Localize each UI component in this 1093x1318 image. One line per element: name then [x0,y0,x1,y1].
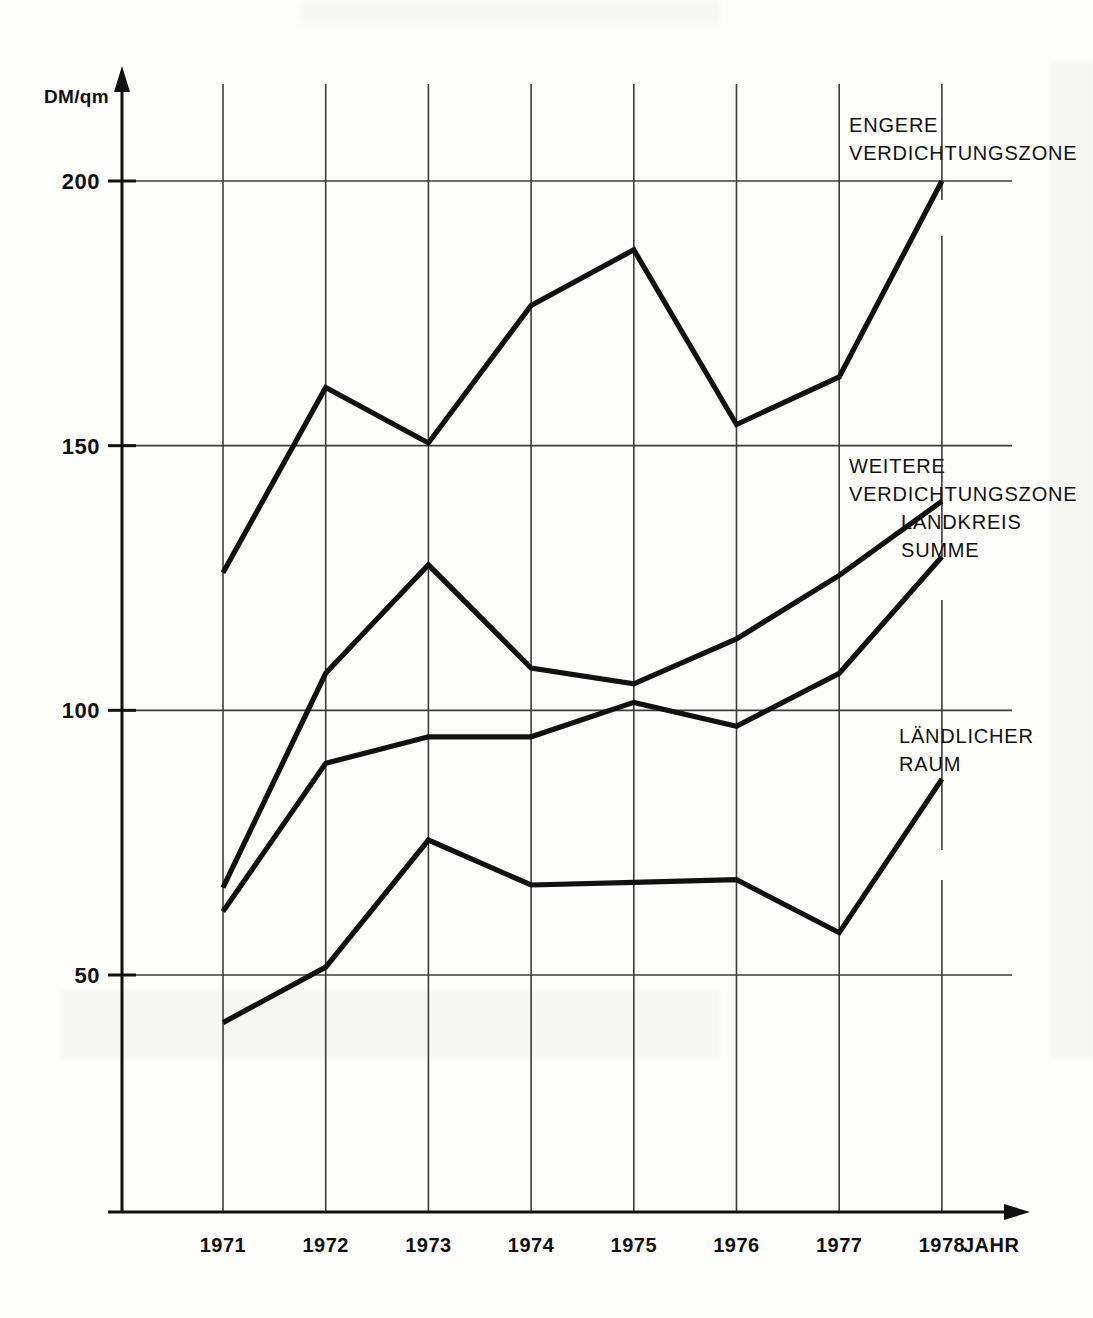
series-line-engere-verdichtungszone [223,181,942,573]
x-tick-labels: 19711972197319741975197619771978 [200,1234,965,1256]
y-tick-labels: 50100150200 [62,169,100,988]
series-annotation-line: LÄNDLICHER [899,725,1034,747]
x-tick-label-1972: 1972 [302,1234,349,1256]
y-axis [108,66,136,1212]
x-tick-label-1971: 1971 [200,1234,247,1256]
series-polylines [223,181,942,1023]
x-axis-name-label: JAHR [963,1234,1020,1256]
y-tick-label-100: 100 [62,698,100,723]
chart-page: 50100150200 1971197219731974197519761977… [0,0,1093,1318]
x-axis [108,1204,1030,1220]
y-tick-label-200: 200 [62,169,100,194]
series-line-weitere-verdichtungszone [223,501,942,888]
x-tick-label-1976: 1976 [713,1234,760,1256]
series-annotations: ENGEREVERDICHTUNGSZONEWEITEREVERDICHTUNG… [849,114,1077,775]
y-axis-unit-label: DM/qm [44,86,109,107]
series-annotation-weitere: WEITEREVERDICHTUNGSZONE [849,455,1077,505]
x-tick-label-1975: 1975 [611,1234,658,1256]
x-tick-label-1974: 1974 [508,1234,555,1256]
series-annotation-line: WEITERE [849,455,946,477]
series-annotation-line: RAUM [899,753,961,775]
series-line-l-ndlicher-raum [223,779,942,1023]
x-tick-label-1977: 1977 [816,1234,863,1256]
series-annotation-line: VERDICHTUNGSZONE [849,142,1077,164]
x-tick-label-1978: 1978 [919,1234,966,1256]
vertical-gridlines [223,84,942,1212]
series-line-landkreis-summe [223,557,942,912]
series-annotation-line: ENGERE [849,114,938,136]
y-tick-label-150: 150 [62,434,100,459]
series-annotation-landkreis-summe: LANDKREISSUMME [901,511,1022,561]
series-annotation-line: LANDKREIS [901,511,1022,533]
series-annotation-laendlicher-raum: LÄNDLICHERRAUM [899,725,1034,775]
series-annotation-line: VERDICHTUNGSZONE [849,483,1077,505]
series-annotation-line: SUMME [901,539,979,561]
x-tick-label-1973: 1973 [405,1234,452,1256]
line-chart: 50100150200 1971197219731974197519761977… [0,0,1093,1318]
series-annotation-engere: ENGEREVERDICHTUNGSZONE [849,114,1077,164]
y-tick-label-50: 50 [75,963,100,988]
